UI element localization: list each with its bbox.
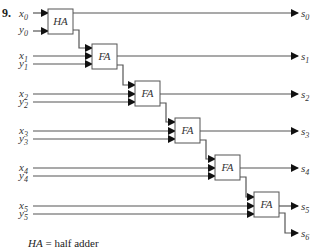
- stage-3: x3 y3 FA s3: [18, 118, 309, 159]
- wire-s6: [279, 213, 298, 233]
- problem-number: 9.: [2, 6, 11, 20]
- output-s3-label: s3: [301, 125, 309, 140]
- legend: HA = half adder: [27, 237, 99, 249]
- full-adder-label-4: FA: [220, 161, 233, 173]
- output-s6-label: s6: [301, 227, 309, 242]
- full-adder-label-5: FA: [259, 198, 272, 210]
- output-s0-label: s0: [301, 7, 309, 22]
- carry-wire-3: [200, 140, 215, 159]
- output-s2-label: s2: [301, 88, 309, 103]
- full-adder-label-3: FA: [180, 124, 193, 136]
- carry-wire-2: [160, 103, 175, 122]
- output-s4-label: s4: [301, 162, 309, 177]
- carry-wire-0: [73, 30, 92, 48]
- stage-2: x2 y2 FA s2: [18, 81, 309, 122]
- full-adder-label-2: FA: [140, 87, 153, 99]
- input-x0-label: x0: [18, 7, 28, 22]
- stage-0: x0 y0 HA s0: [18, 7, 309, 48]
- input-y0-label: y0: [18, 23, 28, 38]
- stage-1: x1 y1 FA s1: [18, 44, 309, 85]
- output-s5-label: s5: [301, 200, 309, 215]
- output-s1-label: s1: [301, 50, 309, 65]
- stage-4: x4 y4 FA s4: [18, 155, 309, 197]
- stage-5: x5 y5 FA s5 s6: [18, 192, 309, 242]
- carry-wire-4: [240, 177, 254, 197]
- carry-wire-1: [117, 65, 135, 85]
- full-adder-label-1: FA: [97, 50, 110, 62]
- half-adder-label: HA: [52, 15, 68, 27]
- ripple-carry-adder-diagram: 9. x0 y0 HA s0 x1 y1 FA s1 x2 y2 FA s2: [0, 0, 312, 251]
